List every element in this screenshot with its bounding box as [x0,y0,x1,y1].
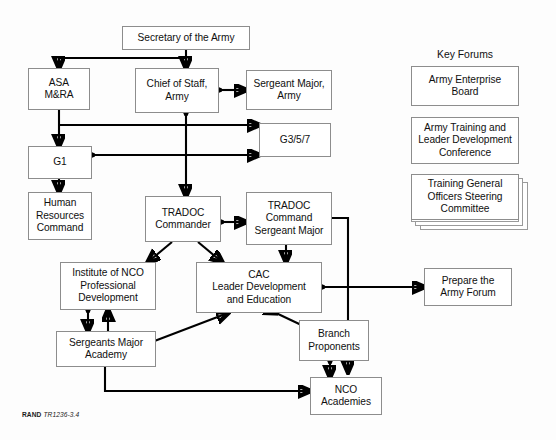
node-label: Prepare the Army Forum [438,275,498,300]
key-forums-title: Key Forums [411,49,519,60]
figure-caption: RAND TR1236-3.4 [22,411,79,418]
forum-label: Army Training and Leader Development Con… [416,122,514,159]
node-label: G1 [51,156,69,168]
forum-army-enterprise-board[interactable]: Army Enterprise Board [411,66,519,106]
forum-training-general-officers-steering-committee[interactable]: Training General Officers Steering Commi… [411,174,519,220]
forum-label: Training General Officers Steering Commi… [426,178,505,215]
node-label: Sergeants Major Academy [67,337,145,362]
node-secretary-of-the-army[interactable]: Secretary of the Army [122,26,250,50]
node-sergeants-major-academy[interactable]: Sergeants Major Academy [56,331,156,367]
node-asa-mra[interactable]: ASA M&RA [28,68,90,110]
node-tradoc-commander[interactable]: TRADOC Commander [145,196,221,242]
node-chief-of-staff-army[interactable]: Chief of Staff, Army [135,68,219,113]
node-label: Sergeant Major, Army [251,78,326,103]
node-human-resources-command[interactable]: Human Resources Command [28,192,92,240]
node-label: Secretary of the Army [136,32,237,44]
node-cac-leader-development-and-education[interactable]: CAC Leader Development and Education [196,262,322,313]
node-label: Chief of Staff, Army [145,78,210,103]
forum-army-training-and-leader-development-conference[interactable]: Army Training and Leader Development Con… [411,117,519,164]
node-label: Branch Proponents [306,328,362,353]
node-label: TRADOC Command Sergeant Major [253,200,326,237]
node-g357[interactable]: G3/5/7 [259,123,331,157]
node-label: Institute of NCO Professional Developmen… [70,267,146,304]
org-chart-figure: Secretary of the Army ASA M&RA Chief of … [0,0,556,440]
node-label: G3/5/7 [278,134,312,146]
node-nco-academies[interactable]: NCO Academies [310,377,382,415]
node-label: CAC Leader Development and Education [210,269,308,306]
node-prepare-the-army-forum[interactable]: Prepare the Army Forum [424,268,512,306]
node-tradoc-command-sergeant-major[interactable]: TRADOC Command Sergeant Major [246,192,332,245]
node-branch-proponents[interactable]: Branch Proponents [299,320,369,361]
caption-prefix: RAND [22,411,41,418]
caption-id: TR1236-3.4 [43,411,79,418]
forum-label: Army Enterprise Board [427,74,503,99]
node-label: TRADOC Commander [153,207,213,232]
node-g1[interactable]: G1 [28,146,92,179]
node-label: Human Resources Command [34,197,86,234]
node-label: NCO Academies [319,384,373,409]
node-sergeant-major-army[interactable]: Sergeant Major, Army [246,70,332,110]
node-label: ASA M&RA [42,77,75,102]
node-institute-of-nco-professional-development[interactable]: Institute of NCO Professional Developmen… [60,262,156,310]
